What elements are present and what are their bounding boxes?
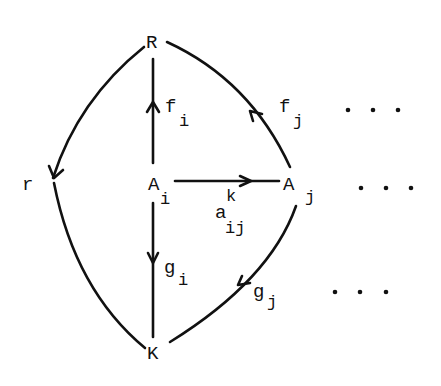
- label-gj: g: [253, 281, 264, 303]
- node-Ai-subscript: i: [160, 190, 170, 209]
- label-fj-subscript: j: [293, 112, 303, 131]
- label-aij-superscript: k: [226, 187, 236, 206]
- label-fi: f: [165, 96, 176, 118]
- label-gi: g: [164, 257, 175, 279]
- ellipsis-bottom: [333, 290, 389, 295]
- ellipsis-top: [346, 108, 401, 113]
- label-aij-subscript: ij: [225, 219, 245, 238]
- label-gj-subscript: j: [267, 293, 277, 312]
- node-Ai: A: [148, 174, 160, 196]
- label-gi-subscript: i: [178, 271, 188, 290]
- label-fi-subscript: i: [179, 112, 189, 131]
- ellipsis-middle: [359, 186, 414, 191]
- node-R: R: [146, 32, 157, 54]
- node-K: K: [147, 343, 159, 365]
- node-Aj-subscript: j: [305, 188, 315, 207]
- label-fj: f: [279, 96, 290, 118]
- edge-R-to-r: [53, 47, 144, 178]
- node-r: r: [22, 174, 33, 196]
- diagram-canvas: R r A i A j K f i f j g i g j a k ij: [0, 0, 441, 386]
- edge-fj: [167, 42, 290, 167]
- edge-K-to-r: [54, 183, 145, 348]
- node-Aj: A: [283, 174, 295, 196]
